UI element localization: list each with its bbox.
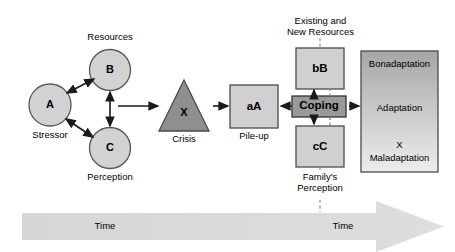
adaptation-top-label: Bonadaptation	[361, 58, 438, 69]
node-c-shape	[90, 128, 131, 169]
node-pileup-caption: Pile-up	[227, 131, 281, 142]
node-b-shape	[90, 50, 131, 91]
node-crisis-caption: Crisis	[157, 134, 211, 145]
node-cc-caption: Family's Perception	[281, 172, 359, 194]
adaptation-bottom-label: Maladaptation	[361, 152, 438, 163]
node-b-caption: Resources	[74, 32, 146, 43]
node-coping-shape	[292, 96, 346, 117]
adaptation-middle-label: Adaptation	[361, 102, 438, 113]
diagram-canvas: A B C X aA bB cC Coping Stressor Resourc…	[0, 0, 455, 252]
diagram-svg	[0, 0, 455, 252]
timeline-right-label: Time	[318, 220, 368, 231]
node-cc-caption-line2: Perception	[281, 183, 359, 194]
node-cc-shape	[296, 126, 344, 167]
node-bb-caption: Existing and New Resources	[278, 16, 363, 38]
node-a-shape	[29, 84, 71, 126]
adaptation-bottom-marker: X	[361, 139, 438, 150]
node-a-caption: Stressor	[18, 130, 82, 141]
timeline-left-label: Time	[80, 220, 130, 231]
node-c-caption: Perception	[74, 172, 146, 183]
node-pileup-shape	[230, 85, 278, 128]
node-bb-shape	[296, 48, 344, 89]
arrow-a-b	[67, 79, 94, 93]
node-bb-caption-line2: New Resources	[278, 27, 363, 38]
node-crisis-shape	[159, 80, 209, 131]
